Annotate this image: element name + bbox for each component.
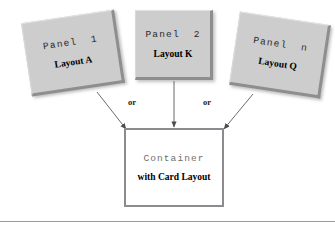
panel-1[interactable]: Panel 1 Layout A bbox=[21, 9, 125, 96]
panel-n[interactable]: Panel n Layout Q bbox=[229, 12, 331, 99]
panel-2[interactable]: Panel 2 Layout K bbox=[135, 10, 213, 80]
container-subtitle: with Card Layout bbox=[138, 172, 211, 182]
connector-panel1-to-container bbox=[97, 92, 126, 129]
container-title: Container bbox=[143, 153, 204, 164]
or-label-left: or bbox=[128, 97, 136, 107]
panel-1-title: Panel 1 bbox=[42, 33, 98, 52]
container-box[interactable]: Container with Card Layout bbox=[124, 128, 224, 207]
connector-panel3-to-container bbox=[224, 94, 253, 129]
card-layout-diagram: Panel 1 Layout A Panel 2 Layout K Panel … bbox=[0, 0, 335, 228]
panel-2-title: Panel 2 bbox=[145, 29, 200, 40]
panel-1-subtitle: Layout A bbox=[54, 54, 93, 69]
panel-n-subtitle: Layout Q bbox=[258, 56, 298, 72]
panel-n-title: Panel n bbox=[252, 35, 308, 54]
or-label-right: or bbox=[203, 97, 211, 107]
bottom-divider bbox=[0, 221, 335, 222]
panel-2-subtitle: Layout K bbox=[154, 49, 193, 59]
